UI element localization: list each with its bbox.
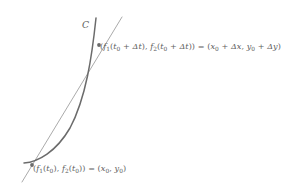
parametric-curve xyxy=(24,18,96,163)
upper-f1-subscript: 1 xyxy=(106,46,110,52)
upper-t2-subscript: 0 xyxy=(164,46,168,52)
upper-equals: = xyxy=(195,41,207,51)
upper-f2-subscript: 2 xyxy=(153,46,157,52)
lower-result-close: ) xyxy=(123,163,126,173)
lower-f2-subscript: 2 xyxy=(65,168,69,174)
lower-equals: = xyxy=(86,163,98,173)
lower-f1-subscript: 1 xyxy=(39,168,43,174)
upper-result-close: ) xyxy=(278,41,281,51)
upper-plus-2: + xyxy=(167,41,179,51)
upper-plus-4: + xyxy=(255,41,267,51)
curve-label: C xyxy=(82,20,89,29)
figure-canvas: C (f1(t0 + Δt), f2(t0 + Δt)) = (x0 + Δx,… xyxy=(0,0,308,191)
upper-plus-3: + xyxy=(219,41,231,51)
lower-t2-subscript: 0 xyxy=(75,168,79,174)
lower-t1-close: ), xyxy=(53,163,59,173)
upper-plus-1: + xyxy=(120,41,132,51)
upper-t1-subscript: 0 xyxy=(117,46,121,52)
lower-x-subscript: 0 xyxy=(105,168,109,174)
upper-x-subscript: 0 xyxy=(215,46,219,52)
upper-delta-t-1: Δt xyxy=(133,41,142,51)
upper-delta-y: Δy xyxy=(267,41,278,51)
lower-point-label: (f1(t0), f2(t0)) = (x0, y0) xyxy=(33,164,126,173)
upper-delta-t-2: Δt xyxy=(179,41,188,51)
lower-y-subscript: 0 xyxy=(119,168,123,174)
upper-point-label: (f1(t0 + Δt), f2(t0 + Δt)) = (x0 + Δx, y… xyxy=(100,42,281,51)
upper-t1-close: ), xyxy=(142,41,148,51)
upper-delta-x: Δx xyxy=(231,41,242,51)
upper-y-subscript: 0 xyxy=(251,46,255,52)
lower-t1-subscript: 0 xyxy=(50,168,54,174)
